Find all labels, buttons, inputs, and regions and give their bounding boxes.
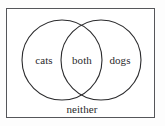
venn-label-left-only: cats [35, 54, 53, 66]
venn-label-outside: neither [66, 103, 97, 115]
venn-label-right-only: dogs [109, 54, 130, 66]
venn-label-intersection: both [72, 54, 92, 66]
venn-diagram-figure: cats both dogs neither [0, 0, 165, 126]
